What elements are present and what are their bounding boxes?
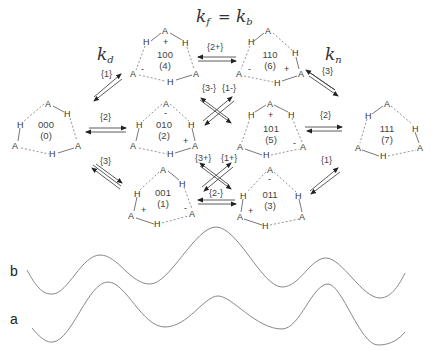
svg-text:{3+}: {3+}	[195, 153, 211, 163]
state-code: 101	[263, 123, 279, 134]
svg-text:A: A	[299, 212, 305, 222]
state-code: 110	[262, 49, 277, 60]
svg-text:A: A	[160, 165, 166, 175]
svg-text:A: A	[75, 141, 81, 151]
equals-sign: =	[218, 8, 231, 26]
energy-profile-a	[32, 282, 405, 345]
svg-text:H: H	[274, 78, 281, 88]
svg-text:H: H	[64, 109, 71, 119]
svg-text:H: H	[248, 110, 255, 120]
kb-symbol: kb	[236, 6, 253, 27]
svg-text:H: H	[143, 37, 150, 47]
state-100: A H H A H A + - 100 (4)	[130, 26, 199, 87]
state-101: A H H A H A + - 101 (5)	[237, 99, 306, 160]
charge-plus: +	[141, 205, 146, 215]
svg-text:H: H	[188, 120, 195, 130]
transition-cross-upper: {3-} {1-}	[200, 83, 236, 125]
svg-text:{1}: {1}	[321, 155, 332, 165]
charge-plus: +	[183, 136, 188, 146]
charge-minus: -	[248, 64, 251, 74]
charge-minus: -	[141, 64, 144, 74]
state-code: 010	[156, 119, 172, 130]
state-code: 000	[38, 119, 54, 130]
state-index: (1)	[157, 198, 169, 209]
svg-text:A: A	[189, 209, 195, 219]
transition-000-100: {1}	[94, 69, 122, 101]
svg-text:{2-}: {2-}	[209, 188, 223, 198]
svg-text:A: A	[300, 142, 306, 152]
kd-symbol: kd	[97, 44, 114, 65]
svg-text:{3}: {3}	[322, 66, 333, 76]
svg-text:A: A	[384, 99, 390, 109]
charge-plus: +	[268, 110, 273, 120]
trace-a: a	[10, 282, 405, 345]
svg-text:A: A	[162, 26, 168, 36]
transition-101-111: {2}	[305, 110, 342, 131]
charge-minus: -	[184, 203, 187, 213]
svg-text:H: H	[292, 48, 299, 58]
state-010: A H H A H A - + 010 (2)	[130, 99, 198, 159]
svg-text:H: H	[412, 124, 419, 134]
svg-text:A: A	[128, 211, 134, 221]
svg-text:A: A	[236, 69, 242, 79]
kn-symbol: kn	[325, 44, 342, 65]
charge-minus: -	[293, 138, 296, 148]
svg-text:{1+}: {1+}	[221, 153, 237, 163]
state-code: 011	[262, 189, 277, 200]
svg-text:{2}: {2}	[100, 112, 111, 122]
svg-text:A: A	[12, 141, 18, 151]
state-index: (2)	[158, 130, 170, 141]
charge-plus: +	[163, 37, 168, 47]
trace-label-a: a	[10, 311, 18, 327]
svg-text:{2}: {2}	[320, 110, 331, 120]
svg-text:A: A	[192, 141, 198, 151]
charge-minus: -	[164, 108, 167, 118]
svg-text:{1}: {1}	[101, 69, 112, 79]
svg-text:H: H	[136, 120, 143, 130]
svg-text:H: H	[167, 77, 174, 87]
svg-text:H: H	[262, 221, 269, 231]
charge-plus: +	[248, 206, 253, 216]
svg-text:A: A	[417, 143, 423, 153]
svg-text:H: H	[248, 37, 255, 47]
state-code: 100	[157, 49, 173, 60]
state-index: (0)	[40, 130, 52, 141]
svg-text:A: A	[45, 99, 51, 109]
svg-text:H: H	[288, 110, 295, 120]
reaction-network-diagram: kf = kb kd kn A H H A H A + - 100 (4) A …	[0, 0, 431, 350]
state-001: A H H A H A + - 001 (1)	[128, 165, 195, 229]
svg-text:A: A	[130, 69, 136, 79]
svg-text:H: H	[17, 120, 24, 130]
charge-plus: +	[284, 64, 289, 74]
transition-cross-lower: {3+} {1+}	[195, 153, 237, 191]
svg-text:A: A	[237, 142, 243, 152]
state-index: (4)	[159, 60, 171, 71]
state-000: A H H A H A 000 (0)	[12, 99, 81, 159]
svg-text:H: H	[365, 111, 372, 121]
svg-text:{1-}: {1-}	[222, 83, 236, 93]
svg-text:A: A	[265, 26, 271, 36]
svg-text:A: A	[237, 212, 243, 222]
state-111: A H H A H A 111 (7)	[355, 99, 423, 161]
svg-text:H: H	[154, 219, 161, 229]
svg-text:A: A	[355, 143, 361, 153]
kf-symbol: kf	[196, 6, 212, 27]
svg-text:A: A	[193, 69, 199, 79]
energy-profile-b	[27, 227, 405, 298]
state-code: 111	[380, 123, 394, 134]
svg-text:{3-}: {3-}	[202, 83, 216, 93]
svg-text:A: A	[130, 141, 136, 151]
svg-text:H: H	[182, 38, 189, 48]
svg-text:H: H	[380, 151, 387, 161]
transition-110-111: {3}	[306, 66, 338, 96]
svg-text:H: H	[134, 189, 141, 199]
svg-text:H: H	[263, 150, 270, 160]
trace-label-b: b	[10, 263, 18, 279]
transition-000-001: {3}	[92, 156, 122, 189]
svg-text:H: H	[167, 149, 174, 159]
transition-011-111: {1}	[310, 155, 340, 194]
state-011: A H H A H A - + 011 (3)	[237, 165, 305, 231]
svg-text:H: H	[49, 149, 56, 159]
equation-kf-equals-kb: kf = kb	[196, 6, 253, 27]
transition-001-011: {2-}	[198, 188, 236, 204]
